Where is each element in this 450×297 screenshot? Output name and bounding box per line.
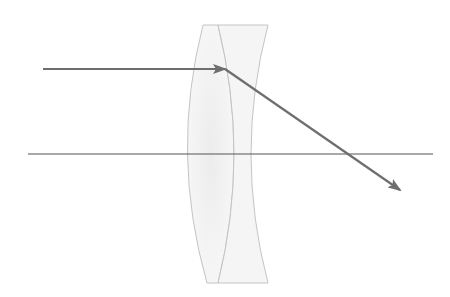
lens-refraction-diagram — [0, 0, 450, 297]
diagram-canvas — [0, 0, 450, 297]
